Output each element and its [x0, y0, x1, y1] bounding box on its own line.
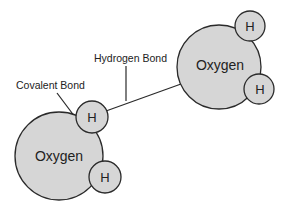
- hydrogen-label: H: [245, 19, 254, 34]
- hydrogen-label: H: [87, 110, 96, 125]
- water-molecule-right: Oxygen H H: [177, 11, 274, 109]
- hydrogen-bond-line: [106, 84, 181, 111]
- hydrogen-label: H: [255, 82, 264, 97]
- oxygen-label: Oxygen: [196, 57, 244, 73]
- hydrogen-bond-label: Hydrogen Bond: [94, 52, 167, 64]
- water-molecule-left: Oxygen H H: [15, 101, 121, 200]
- water-hydrogen-bond-diagram: Oxygen H H Oxygen H H Hydrogen Bond Cova…: [0, 0, 286, 210]
- oxygen-label: Oxygen: [35, 148, 83, 164]
- hydrogen-label: H: [100, 170, 109, 185]
- covalent-bond-label: Covalent Bond: [16, 79, 85, 91]
